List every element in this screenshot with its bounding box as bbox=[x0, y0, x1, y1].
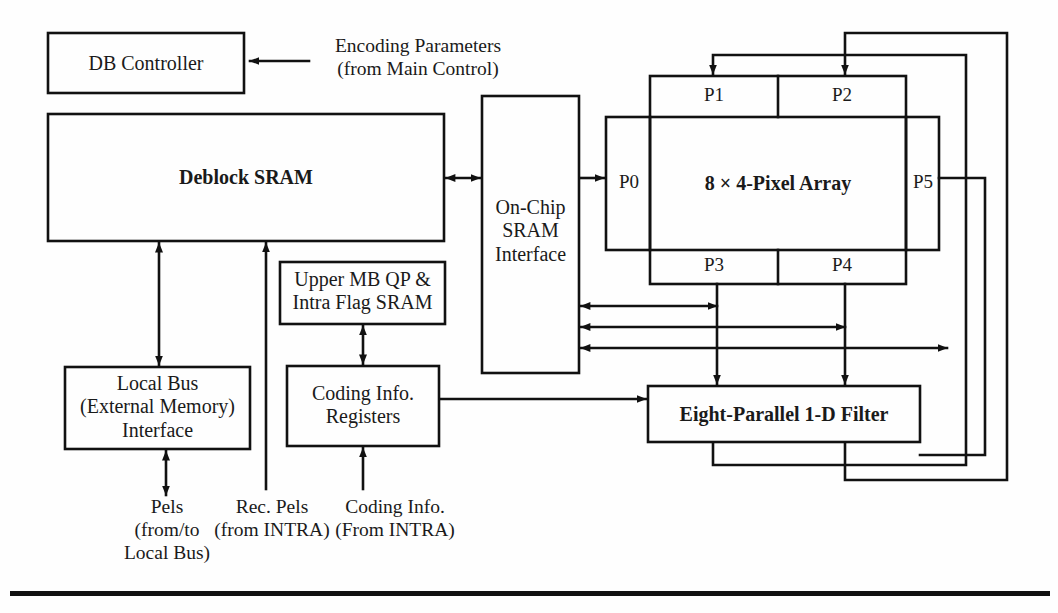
block-diagram-figure: DB Controller Deblock SRAM On-Chip SRAM … bbox=[0, 0, 1058, 613]
coding-info-registers-box bbox=[287, 366, 439, 446]
diagram-vector-layer bbox=[0, 0, 1058, 613]
figure-bottom-rule bbox=[10, 591, 1050, 596]
connector-filter-feedback-to-p2 bbox=[845, 33, 1007, 480]
pixel-array-row-box bbox=[606, 117, 939, 250]
upper-mb-qp-intra-flag-sram-box bbox=[280, 262, 445, 324]
local-bus-interface-box bbox=[65, 367, 250, 449]
connector-p5-feedback-loop bbox=[920, 178, 985, 455]
onchip-sram-interface-box bbox=[482, 96, 579, 373]
db-controller-box bbox=[48, 33, 244, 93]
eight-parallel-filter-box bbox=[648, 386, 920, 442]
deblock-sram-box bbox=[48, 114, 444, 241]
